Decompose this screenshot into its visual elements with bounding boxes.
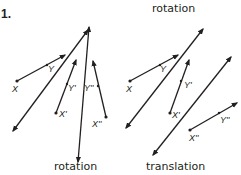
label-x: X xyxy=(11,84,19,94)
label-y2: Y'' xyxy=(220,115,230,125)
caption-right-bottom: translation xyxy=(146,160,205,173)
ray-xy xyxy=(130,55,178,81)
label-x1: X' xyxy=(171,110,180,120)
label-x: X xyxy=(125,84,133,94)
point-y2 xyxy=(97,85,99,87)
ray-x2y2 xyxy=(190,103,237,130)
label-y: Y xyxy=(160,64,167,74)
point-x1 xyxy=(54,111,57,114)
label-y1: Y' xyxy=(184,80,192,90)
point-y2 xyxy=(218,112,220,114)
point-x xyxy=(15,79,18,82)
label-x1: X' xyxy=(58,109,67,119)
problem-number: 1. xyxy=(1,7,11,21)
line-diagonal xyxy=(13,30,88,131)
label-y1: Y' xyxy=(68,83,76,93)
left-figure: X Y X' Y' X'' Y'' rotation xyxy=(11,27,108,173)
caption-left-bottom: rotation xyxy=(54,160,97,173)
caption-right-top: rotation xyxy=(152,2,195,15)
label-y2: Y'' xyxy=(84,83,94,93)
point-x xyxy=(128,79,131,82)
ray-x2y2 xyxy=(93,61,106,117)
line-vertical xyxy=(78,27,89,162)
ray-xy xyxy=(17,55,65,81)
right-figure: rotation X Y X' Y' X'' Y'' translation xyxy=(125,2,237,173)
label-x2: X'' xyxy=(188,133,199,143)
line-1 xyxy=(126,29,203,128)
point-y1 xyxy=(180,80,182,82)
label-x2: X'' xyxy=(91,119,102,129)
point-x2 xyxy=(188,128,191,131)
point-x2 xyxy=(104,115,107,118)
label-y: Y xyxy=(48,64,55,74)
transformation-diagram: 1. X Y X' Y' X'' Y'' rotation rotation X xyxy=(0,0,241,175)
